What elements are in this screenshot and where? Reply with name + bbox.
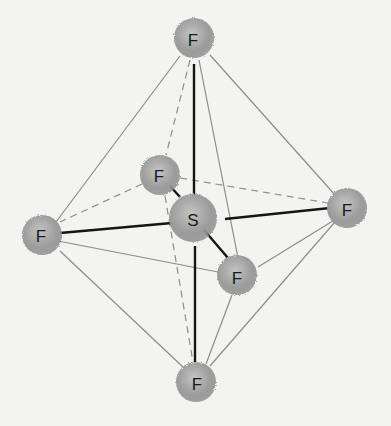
svg-text:F: F — [154, 167, 164, 186]
atom-f-top: F — [174, 18, 214, 58]
atom-f-front: F — [217, 255, 257, 295]
atom-f-back: F — [140, 155, 180, 195]
sf6-octahedral-diagram: F F S F F F F — [0, 0, 391, 426]
atom-f-right: F — [327, 188, 367, 228]
atom-f-bottom: F — [176, 362, 216, 402]
svg-text:S: S — [187, 211, 198, 230]
svg-text:F: F — [36, 227, 46, 246]
atom-s-center: S — [169, 194, 217, 242]
atom-f-left: F — [22, 215, 62, 255]
svg-text:F: F — [232, 269, 242, 288]
svg-text:F: F — [342, 201, 352, 220]
svg-text:F: F — [192, 375, 202, 394]
molecule-svg: F F S F F F F — [0, 0, 391, 426]
svg-text:F: F — [188, 31, 198, 50]
